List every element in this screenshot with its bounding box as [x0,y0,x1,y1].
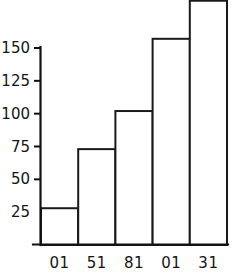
y-tick-label: 75 [11,138,30,156]
bars-group [41,1,227,245]
bar [153,39,190,245]
bar [115,111,152,245]
bar-chart-figure: 255075100125150 0151810131 [0,0,236,275]
x-tick-label: 01 [50,254,70,272]
y-tick-label: 50 [11,170,30,188]
y-tick-label: 125 [1,72,30,90]
bar [41,208,78,245]
bar [190,1,227,245]
y-tick-label: 25 [11,203,30,221]
x-tick-label: 51 [87,254,107,272]
y-tick-label-group: 255075100125150 [1,39,30,221]
y-tick-label: 100 [1,105,30,123]
x-tick-label: 81 [124,254,144,272]
x-tick-label-group: 0151810131 [50,254,219,272]
chart-plot-area: 255075100125150 0151810131 [0,0,236,275]
x-tick-label: 31 [198,254,218,272]
y-tick-label: 150 [1,39,30,57]
bar [78,149,115,245]
x-tick-label: 01 [161,254,181,272]
